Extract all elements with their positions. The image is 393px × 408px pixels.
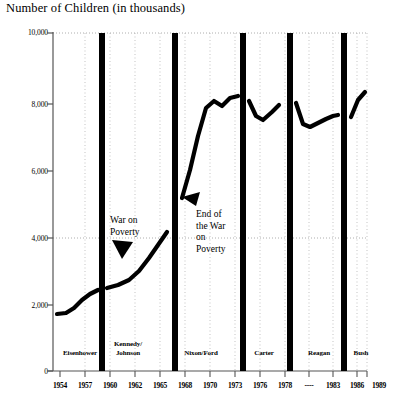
era-divider-4 bbox=[287, 33, 293, 371]
chart-container: Number of Children (in thousands) 10,000… bbox=[0, 0, 393, 408]
era-dividers bbox=[99, 33, 347, 371]
era-divider-5 bbox=[341, 33, 347, 371]
data-segment-eisenhower bbox=[57, 290, 98, 314]
era-divider-2 bbox=[172, 33, 178, 371]
era-divider-3 bbox=[240, 33, 246, 371]
data-segment-carter bbox=[249, 101, 279, 120]
grid-vertical bbox=[85, 33, 367, 371]
era-divider-1 bbox=[99, 33, 105, 371]
plot-area bbox=[0, 0, 393, 408]
y-tick-marks bbox=[47, 33, 53, 371]
arrow-war-on-poverty bbox=[112, 240, 133, 259]
data-segment-bush bbox=[351, 92, 365, 117]
data-segment-reagan bbox=[296, 103, 338, 127]
data-segment-nixon-ford bbox=[182, 96, 238, 198]
x-tick-marks bbox=[60, 371, 367, 377]
